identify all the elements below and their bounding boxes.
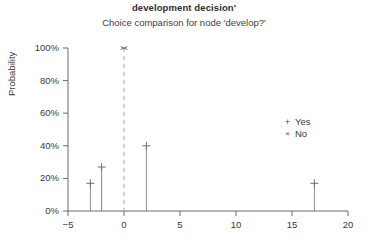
x-tick-label-minus5: −5 [53, 219, 83, 230]
legend-label-yes: Yes [292, 116, 311, 128]
chart-container: development decision' Choice comparison … [0, 0, 368, 245]
x-tick-label-20: 20 [333, 219, 363, 230]
data-point-yes-minus2 [98, 163, 106, 211]
data-point-yes-minus3 [86, 179, 94, 211]
legend-item-no: × No [283, 128, 311, 140]
plus-marker-icon: + [283, 116, 292, 128]
data-point-yes-2 [142, 142, 150, 211]
plot-area: 100% 80% 60% 40% 20% 0% −5 0 5 10 15 20 … [0, 0, 368, 245]
cross-marker-icon: × [283, 128, 292, 140]
x-tick-label-15: 15 [277, 219, 307, 230]
y-tick-label-80: 80% [19, 75, 59, 86]
y-tick-label-100: 100% [19, 42, 59, 53]
x-tick-label-0: 0 [109, 219, 139, 230]
legend-item-yes: + Yes [283, 116, 311, 128]
y-tick-label-0: 0% [19, 205, 59, 216]
y-axis-title: Probability [6, 82, 17, 96]
x-tick-label-5: 5 [165, 219, 195, 230]
legend-label-no: No [292, 128, 307, 140]
y-tick-label-40: 40% [19, 140, 59, 151]
x-tick-label-10: 10 [221, 219, 251, 230]
data-point-yes-17 [310, 179, 318, 211]
y-tick-label-20: 20% [19, 172, 59, 183]
chart-legend: + Yes × No [283, 116, 311, 140]
y-tick-label-60: 60% [19, 107, 59, 118]
